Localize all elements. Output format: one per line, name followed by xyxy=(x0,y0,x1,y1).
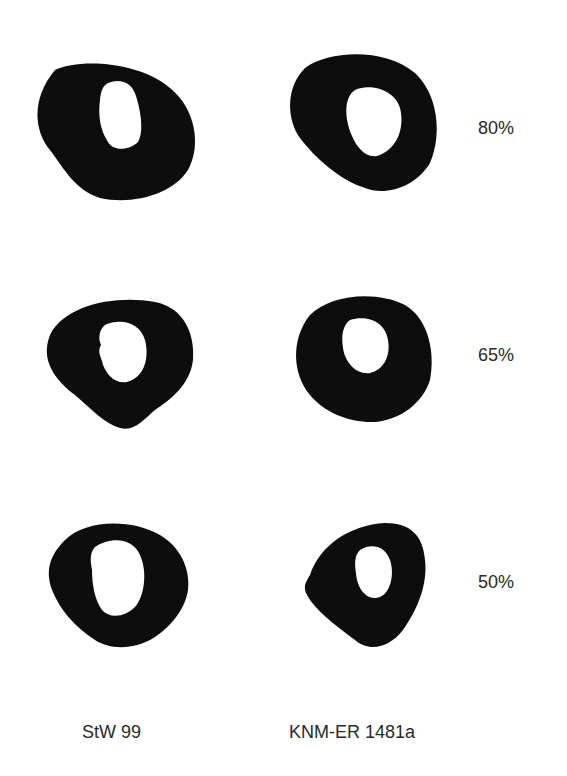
level-label-65: 65% xyxy=(478,345,514,366)
cross-section-knm-65 xyxy=(285,285,445,430)
cross-section-stw99-80 xyxy=(20,50,210,210)
level-label-80: 80% xyxy=(478,118,514,139)
cross-section-knm-80 xyxy=(275,48,445,198)
cross-section-stw99-65 xyxy=(35,290,205,435)
cross-section-knm-50 xyxy=(295,515,445,655)
cross-section-stw99-50 xyxy=(40,515,200,655)
column-label-knm: KNM-ER 1481a xyxy=(289,722,415,743)
level-label-50: 50% xyxy=(478,572,514,593)
column-label-stw99: StW 99 xyxy=(82,722,141,743)
